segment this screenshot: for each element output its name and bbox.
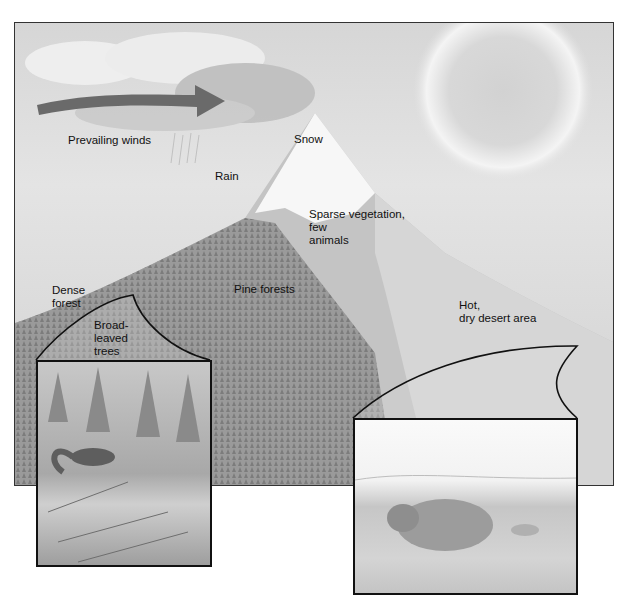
rodent-scene [355, 420, 578, 595]
snow-cap [255, 113, 375, 223]
label-dense-forest: Dense forest [52, 284, 85, 310]
desert-inset [353, 418, 578, 595]
clouds [25, 32, 315, 131]
squirrel-icon [71, 448, 115, 466]
label-prevailing-winds: Prevailing winds [68, 134, 151, 147]
squirrel-scene [38, 362, 212, 567]
label-pine-forests: Pine forests [234, 283, 295, 296]
label-rain: Rain [215, 170, 239, 183]
label-sparse-vegetation: Sparse vegetation, few animals [309, 208, 405, 247]
label-hot-dry-desert: Hot, dry desert area [459, 299, 536, 325]
forest-inset [36, 360, 212, 567]
sun-icon [413, 23, 593, 181]
rain-streaks [171, 133, 199, 165]
label-broad-leaved-trees: Broad- leaved trees [94, 319, 129, 358]
label-snow: Snow [294, 133, 323, 146]
